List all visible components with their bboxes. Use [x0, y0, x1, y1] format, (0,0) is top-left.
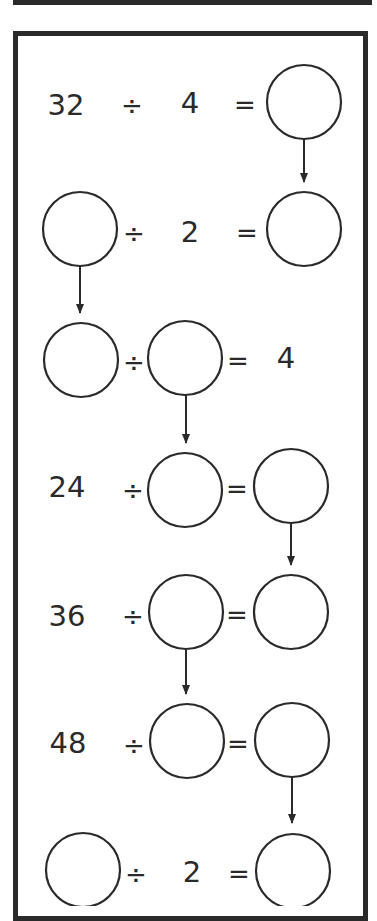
row1-divisor: 4 [181, 89, 199, 118]
row3-equals-sign: = [227, 348, 249, 374]
row7-divisor: 2 [183, 858, 201, 887]
row5-divide-sign: ÷ [122, 604, 144, 630]
row3-quotient: 4 [277, 344, 295, 373]
row1-dividend: 32 [48, 91, 85, 120]
row6-dividend: 48 [50, 729, 87, 758]
row6-equals-sign: = [227, 731, 249, 757]
row5-dividend: 36 [49, 602, 86, 631]
answer-circle-row4-result[interactable] [254, 449, 328, 523]
answer-circle-row3-a[interactable] [44, 323, 118, 397]
row2-divide-sign: ÷ [123, 221, 145, 247]
row7-equals-sign: = [228, 861, 250, 887]
answer-circle-row6-b[interactable] [150, 704, 224, 778]
row1-equals-sign: = [234, 92, 256, 118]
row4-divide-sign: ÷ [122, 478, 144, 504]
row5-equals-sign: = [226, 602, 248, 628]
row6-divide-sign: ÷ [123, 733, 145, 759]
row7-divide-sign: ÷ [125, 862, 147, 888]
answer-circle-row1-result[interactable] [267, 65, 341, 139]
row1-divide-sign: ÷ [121, 93, 143, 119]
answer-circle-row4-b[interactable] [148, 453, 222, 527]
answer-circle-row5-b[interactable] [149, 575, 223, 649]
answer-circle-row7-a[interactable] [46, 833, 120, 906]
answer-circle-row6-result[interactable] [255, 703, 329, 777]
answer-circle-row2-result[interactable] [267, 192, 341, 266]
answer-circle-row2-a[interactable] [43, 192, 117, 266]
row2-divisor: 2 [181, 218, 199, 247]
answer-circle-row3-b[interactable] [148, 321, 222, 395]
answer-circle-row5-result[interactable] [254, 575, 328, 649]
row2-equals-sign: = [236, 220, 258, 246]
row4-dividend: 24 [49, 473, 86, 502]
row4-equals-sign: = [226, 476, 248, 502]
answer-circle-row7-result[interactable] [256, 834, 330, 906]
row3-divide-sign: ÷ [123, 350, 145, 376]
